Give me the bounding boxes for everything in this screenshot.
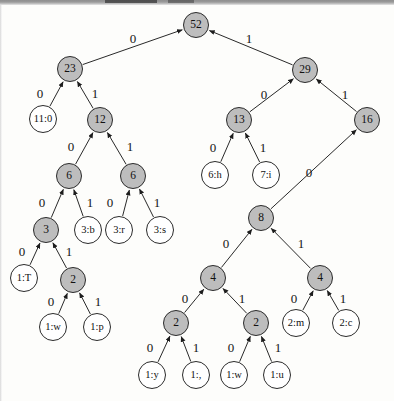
edge-label-bit: 0 bbox=[44, 294, 58, 310]
tree-internal-node: 23 bbox=[57, 56, 83, 82]
tree-leaf-node: 11:0 bbox=[29, 105, 57, 133]
edge-label-bit: 1 bbox=[338, 87, 352, 103]
tree-edge bbox=[51, 189, 63, 217]
tree-edge bbox=[80, 293, 91, 314]
tree-internal-node: 29 bbox=[292, 57, 318, 83]
edge-label-bit: 1 bbox=[150, 195, 164, 211]
tree-internal-node: 6 bbox=[56, 163, 82, 189]
tree-internal-node: 12 bbox=[87, 107, 113, 133]
tree-leaf-node: 3:s bbox=[146, 216, 174, 244]
edge-label-bit: 1 bbox=[294, 236, 308, 252]
edge-label-bit: 0 bbox=[35, 195, 49, 211]
edge-label-bit: 0 bbox=[219, 236, 233, 252]
tree-edge bbox=[74, 190, 83, 217]
edge-label-bit: 0 bbox=[224, 340, 238, 356]
edge-label-bit: 1 bbox=[88, 86, 102, 102]
huffman-tree-figure: 01010101010101001010101010101 52232911:0… bbox=[0, 0, 394, 401]
tree-internal-node: 13 bbox=[226, 107, 252, 133]
tree-leaf-node: 3:r bbox=[105, 216, 133, 244]
edge-label-bit: 1 bbox=[83, 195, 97, 211]
edge-label-bit: 0 bbox=[257, 87, 271, 103]
tree-leaf-node: 6:h bbox=[201, 161, 229, 189]
tree-internal-node: 2 bbox=[163, 310, 189, 336]
tree-edge bbox=[240, 336, 251, 361]
edge-label-bit: 0 bbox=[33, 86, 47, 102]
tree-edge bbox=[76, 133, 93, 165]
tree-edge bbox=[221, 133, 233, 161]
tree-internal-node: 4 bbox=[307, 265, 333, 291]
edge-label-bit: 0 bbox=[103, 195, 117, 211]
edge-label-bit: 1 bbox=[189, 340, 203, 356]
tree-leaf-node: 1:p bbox=[83, 313, 111, 341]
tree-leaf-node: 1:, bbox=[182, 361, 210, 389]
tree-leaf-node: 1:T bbox=[10, 264, 38, 292]
tree-internal-node: 2 bbox=[243, 310, 269, 336]
edge-label-bit: 0 bbox=[143, 340, 157, 356]
edge-label-bit: 0 bbox=[15, 244, 29, 260]
tree-internal-node: 4 bbox=[200, 265, 226, 291]
edge-label-bit: 0 bbox=[302, 165, 316, 181]
tree-leaf-node: 3:b bbox=[74, 216, 102, 244]
edge-label-bit: 1 bbox=[256, 140, 270, 156]
edge-label-bit: 1 bbox=[235, 291, 249, 307]
tree-edge bbox=[303, 291, 313, 310]
edge-label-bit: 1 bbox=[62, 244, 76, 260]
tree-leaf-node: 2:m bbox=[282, 309, 310, 337]
tree-internal-node: 16 bbox=[354, 107, 380, 133]
tree-edge bbox=[59, 293, 68, 313]
edge-label-bit: 0 bbox=[126, 31, 140, 47]
tree-leaf-node: 1:y bbox=[138, 361, 166, 389]
tree-edge bbox=[30, 243, 40, 265]
edge-label-bit: 0 bbox=[64, 139, 78, 155]
tree-leaf-node: 2:c bbox=[332, 309, 360, 337]
tree-internal-node: 6 bbox=[120, 163, 146, 189]
tree-edge bbox=[50, 82, 63, 106]
edge-label-bit: 0 bbox=[206, 140, 220, 156]
tree-internal-node: 2 bbox=[60, 267, 86, 293]
tree-internal-node: 3 bbox=[33, 217, 59, 243]
tree-leaf-node: 1:w bbox=[39, 313, 67, 341]
edge-label-bit: 1 bbox=[123, 139, 137, 155]
tree-internal-node: 52 bbox=[183, 12, 209, 38]
tree-leaf-node: 1:u bbox=[263, 361, 291, 389]
tree-edge bbox=[123, 190, 130, 216]
edge-label-bit: 1 bbox=[336, 291, 350, 307]
edge-label-bit: 1 bbox=[271, 340, 285, 356]
tree-edge bbox=[158, 336, 170, 362]
edge-label-bit: 0 bbox=[287, 291, 301, 307]
tree-leaf-node: 7:i bbox=[252, 161, 280, 189]
edge-label-bit: 0 bbox=[178, 291, 192, 307]
tree-leaf-node: 1:w bbox=[220, 361, 248, 389]
edge-label-bit: 1 bbox=[91, 294, 105, 310]
tree-internal-node: 8 bbox=[248, 205, 274, 231]
edge-label-bit: 1 bbox=[242, 31, 256, 47]
